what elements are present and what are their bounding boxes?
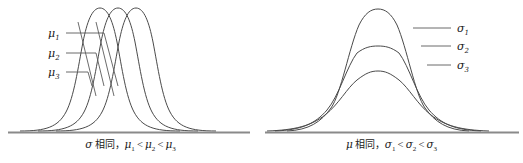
label-mu-2: μ2 (48, 47, 60, 62)
caption-mu-2-sub: 2 (152, 145, 156, 153)
mean-shift-panel: μ1 μ2 μ3 σ 相同，μ1 < μ2 < μ3 (0, 0, 261, 163)
label-mu-1: μ1 (48, 27, 60, 42)
normal-distribution-figure: μ1 μ2 μ3 σ 相同，μ1 < μ2 < μ3 σ1 σ2 σ3 (0, 0, 523, 163)
mean-shift-caption: σ 相同，μ1 < μ2 < μ3 (0, 136, 261, 157)
caption-sigma-2-sub: 2 (413, 145, 417, 153)
curve-mu-3 (56, 8, 216, 131)
label-sigma-2: σ2 (457, 40, 470, 55)
sigma-spread-caption: μ 相同，σ1 < σ2 < σ3 (261, 136, 522, 157)
mean-shift-plot: μ1 μ2 μ3 (0, 0, 261, 136)
caption-sigma-1-sub: 1 (392, 145, 396, 153)
caption-lt-1: < (398, 139, 404, 150)
caption-sigma-3-sub: 3 (434, 145, 438, 153)
caption-comma: ， (115, 139, 125, 150)
caption-sigma-3: σ (426, 138, 433, 150)
curve-sigma-2 (275, 46, 481, 131)
label-mu-3: μ3 (48, 66, 60, 81)
caption-sigma-2: σ (406, 138, 413, 150)
curve-sigma-1 (287, 9, 469, 131)
caption-comma: ， (375, 139, 385, 150)
curve-sigma-3 (267, 71, 489, 131)
caption-word-same: 相同 (95, 139, 115, 150)
sigma-spread-plot: σ1 σ2 σ3 (261, 0, 522, 136)
caption-mu-2: μ (145, 138, 152, 150)
caption-lt-2: < (418, 139, 424, 150)
caption-mu-1-sub: 1 (131, 145, 135, 153)
caption-symbol-sigma: σ (85, 138, 92, 150)
caption-word-same: 相同 (355, 139, 375, 150)
connector-mu-3 (88, 72, 92, 86)
caption-sigma-1: σ (385, 138, 392, 150)
caption-lt-1: < (137, 139, 143, 150)
curve-mu-2 (38, 8, 198, 131)
label-sigma-1: σ1 (457, 22, 469, 37)
caption-mu-3-sub: 3 (172, 145, 176, 153)
connector-mu-2 (96, 53, 104, 86)
sigma-spread-panel: σ1 σ2 σ3 μ 相同，σ1 < σ2 < σ3 (261, 0, 522, 163)
caption-lt-2: < (157, 139, 163, 150)
label-sigma-3: σ3 (457, 59, 470, 74)
caption-symbol-mu: μ (346, 138, 353, 150)
